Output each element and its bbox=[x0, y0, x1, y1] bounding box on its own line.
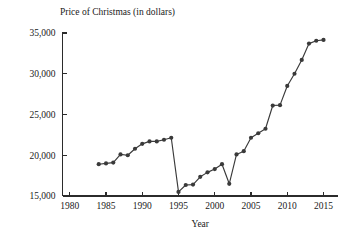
data-point-marker bbox=[256, 131, 260, 135]
data-point-marker bbox=[118, 152, 122, 156]
data-point-marker bbox=[111, 160, 115, 164]
data-point-marker bbox=[169, 136, 173, 140]
data-point-marker bbox=[140, 142, 144, 146]
data-point-marker bbox=[198, 175, 202, 179]
data-point-marker bbox=[205, 170, 209, 174]
y-tick-label: 25,000 bbox=[29, 110, 55, 120]
x-tick-label: 1985 bbox=[97, 201, 116, 211]
line-chart-plot: 15,00020,00025,00030,00035,000 198019851… bbox=[0, 0, 348, 245]
data-point-marker bbox=[242, 149, 246, 153]
data-point-marker bbox=[314, 39, 318, 43]
data-point-marker bbox=[227, 182, 231, 186]
data-point-marker bbox=[147, 139, 151, 143]
data-point-marker bbox=[184, 183, 188, 187]
data-point-marker bbox=[104, 161, 108, 165]
data-point-marker bbox=[176, 190, 180, 194]
y-tick-label: 30,000 bbox=[29, 69, 55, 79]
x-tick-label: 2015 bbox=[314, 201, 333, 211]
x-tick-label: 1990 bbox=[133, 201, 152, 211]
y-tick-label: 15,000 bbox=[29, 191, 55, 201]
x-tick-label: 1980 bbox=[60, 201, 79, 211]
data-point-marker bbox=[133, 147, 137, 151]
data-point-marker bbox=[271, 103, 275, 107]
data-point-marker bbox=[234, 152, 238, 156]
data-point-marker bbox=[97, 162, 101, 166]
data-point-marker bbox=[285, 84, 289, 88]
data-point-marker bbox=[249, 136, 253, 140]
data-point-marker bbox=[162, 138, 166, 142]
x-axis-tick-labels: 19801985199019952000200520102015 bbox=[60, 201, 333, 211]
y-axis-tick-labels: 15,00020,00025,00030,00035,000 bbox=[29, 28, 55, 201]
x-tick-label: 2000 bbox=[205, 201, 224, 211]
y-tick-label: 20,000 bbox=[29, 151, 55, 161]
x-tick-label: 1995 bbox=[169, 201, 188, 211]
data-point-marker bbox=[155, 139, 159, 143]
chart-figure: Price of Christmas (in dollars) 15,00020… bbox=[0, 0, 348, 245]
data-point-marker bbox=[321, 38, 325, 42]
data-series-line bbox=[99, 40, 324, 192]
y-tick-label: 35,000 bbox=[29, 28, 55, 38]
x-axis-tick-marks bbox=[70, 192, 324, 196]
data-point-marker bbox=[263, 127, 267, 131]
x-axis-label: Year bbox=[191, 219, 209, 229]
data-point-marker bbox=[213, 167, 217, 171]
y-axis-tick-marks bbox=[63, 33, 67, 155]
data-point-marker bbox=[191, 182, 195, 186]
data-point-marker bbox=[220, 162, 224, 166]
data-point-marker bbox=[307, 41, 311, 45]
x-tick-label: 2010 bbox=[278, 201, 297, 211]
data-point-marker bbox=[278, 103, 282, 107]
x-tick-label: 2005 bbox=[242, 201, 261, 211]
data-point-marker bbox=[126, 153, 130, 157]
data-point-marker bbox=[292, 72, 296, 76]
data-point-marker bbox=[300, 58, 304, 62]
